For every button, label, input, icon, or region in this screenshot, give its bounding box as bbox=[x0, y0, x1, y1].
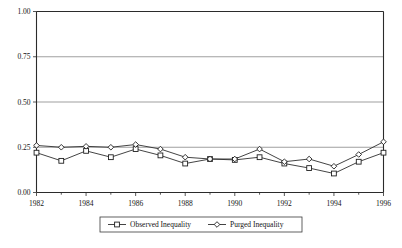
x-tick-label: 1992 bbox=[277, 199, 292, 208]
legend-label: Purged Inequality bbox=[230, 220, 284, 229]
diamond-marker-icon bbox=[381, 139, 387, 145]
x-tick-label-group: 19821984198619881990199219941996 bbox=[29, 199, 391, 208]
square-marker-icon bbox=[332, 171, 337, 176]
x-tick-label: 1984 bbox=[79, 199, 94, 208]
square-marker-icon bbox=[115, 222, 120, 227]
square-marker-icon bbox=[158, 153, 163, 158]
diamond-marker-icon bbox=[331, 163, 337, 169]
square-marker-icon bbox=[59, 158, 64, 163]
square-marker-icon bbox=[183, 161, 188, 166]
y-tick-label: 0.25 bbox=[17, 143, 30, 152]
diamond-marker-icon bbox=[356, 152, 362, 158]
square-marker-icon bbox=[307, 166, 312, 171]
y-tick-label-group: 0.000.250.500.751.00 bbox=[17, 7, 30, 197]
diamond-marker-icon bbox=[182, 154, 188, 160]
diamond-marker-icon bbox=[108, 144, 114, 150]
square-marker-icon bbox=[108, 155, 113, 160]
square-marker-icon bbox=[257, 155, 262, 160]
y-tick-label: 0.50 bbox=[17, 98, 30, 107]
gridline-group bbox=[37, 12, 384, 148]
series-purged-inequality bbox=[34, 139, 387, 169]
data-series-group bbox=[34, 139, 387, 176]
square-marker-icon bbox=[34, 150, 39, 155]
y-tick-label: 0.00 bbox=[17, 188, 30, 197]
square-marker-icon bbox=[356, 159, 361, 164]
diamond-marker-icon bbox=[58, 144, 64, 150]
square-marker-icon bbox=[381, 150, 386, 155]
y-tick-label: 0.75 bbox=[17, 52, 30, 61]
inequality-line-chart: 0.000.250.500.751.00 1982198419861988199… bbox=[0, 0, 402, 248]
x-tick-label: 1988 bbox=[178, 199, 193, 208]
diamond-marker-icon bbox=[306, 156, 312, 162]
chart-legend: Observed InequalityPurged Inequality bbox=[100, 217, 302, 232]
x-tick-label: 1986 bbox=[128, 199, 143, 208]
legend-label: Observed Inequality bbox=[130, 220, 191, 229]
x-tick-label: 1990 bbox=[227, 199, 242, 208]
x-tick-label: 1996 bbox=[376, 199, 391, 208]
x-tick-label: 1994 bbox=[326, 199, 341, 208]
x-tick-label: 1982 bbox=[29, 199, 44, 208]
y-tick-label: 1.00 bbox=[17, 7, 30, 16]
